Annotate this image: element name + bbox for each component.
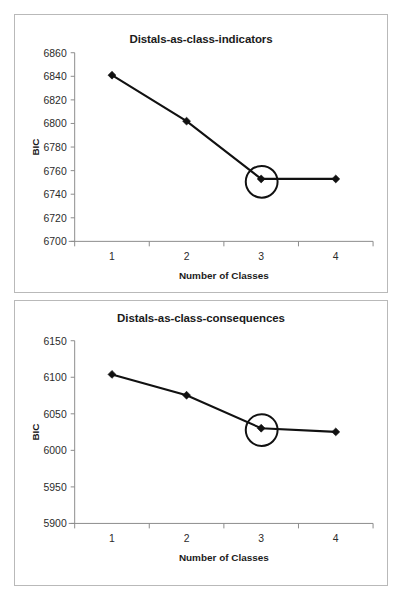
y-tick-label: 6740 <box>44 189 67 200</box>
y-tick-label: 6760 <box>44 166 67 177</box>
x-tick-label: 4 <box>333 251 339 262</box>
y-tick-marks <box>71 341 75 524</box>
chart-svg-indicators: 6860 6840 6820 6800 6780 6760 6740 6720 … <box>15 15 387 292</box>
y-tick-label: 6000 <box>44 445 67 456</box>
x-axis-title: Number of Classes <box>179 552 269 563</box>
x-tick-marks <box>75 241 373 246</box>
series-markers <box>108 71 340 183</box>
series-markers <box>108 370 340 435</box>
y-tick-label: 6100 <box>44 372 67 383</box>
y-tick-label: 6820 <box>44 95 67 106</box>
x-axis-title: Number of Classes <box>179 270 269 281</box>
y-tick-label: 5950 <box>44 482 67 493</box>
y-tick-label: 6150 <box>44 336 67 347</box>
y-tick-label: 6860 <box>44 48 67 59</box>
x-tick-label: 3 <box>258 251 264 262</box>
series-line-bic <box>112 374 336 431</box>
x-tick-label: 1 <box>109 533 115 544</box>
x-tick-marks <box>75 523 373 528</box>
series-line-bic <box>112 75 336 179</box>
chart-svg-consequences: 6150 6100 6050 6000 5950 5900 1 2 3 4 Nu… <box>15 301 387 585</box>
figure-page: Distals-as-class-indicators 6860 6840 <box>0 0 403 600</box>
chart-panel-indicators: Distals-as-class-indicators 6860 6840 <box>14 14 388 293</box>
y-tick-marks <box>71 53 75 242</box>
y-axis-title: BIC <box>30 139 41 156</box>
y-axis-title: BIC <box>30 424 41 441</box>
y-tick-label: 6700 <box>44 236 67 247</box>
x-tick-label: 2 <box>184 251 190 262</box>
y-tick-label: 6800 <box>44 118 67 129</box>
chart-panel-consequences: Distals-as-class-consequences 6150 6100 … <box>14 300 388 586</box>
y-tick-label: 6720 <box>44 213 67 224</box>
y-tick-label: 5900 <box>44 518 67 529</box>
y-tick-label: 6840 <box>44 71 67 82</box>
x-tick-label: 1 <box>109 251 115 262</box>
x-tick-label: 4 <box>333 533 339 544</box>
y-tick-label: 6780 <box>44 142 67 153</box>
x-tick-label: 3 <box>258 533 264 544</box>
x-tick-label: 2 <box>184 533 190 544</box>
y-tick-label: 6050 <box>44 409 67 420</box>
